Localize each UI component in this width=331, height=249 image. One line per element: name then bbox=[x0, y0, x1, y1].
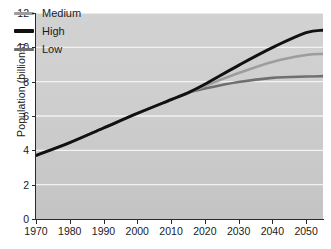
x-tick-mark bbox=[104, 220, 105, 224]
legend-swatch-icon bbox=[14, 48, 34, 51]
x-tick-mark bbox=[36, 220, 37, 224]
y-tick-mark bbox=[32, 219, 36, 220]
legend-item-high[interactable]: High bbox=[14, 23, 81, 39]
x-tick-mark bbox=[70, 220, 71, 224]
legend-swatch-icon bbox=[14, 29, 34, 33]
legend-item-label: High bbox=[42, 26, 65, 37]
y-tick-mark bbox=[32, 13, 36, 14]
legend-item-label: Medium bbox=[42, 8, 81, 19]
y-tick-mark bbox=[32, 47, 36, 48]
x-tick-mark bbox=[171, 220, 172, 224]
legend-item-medium[interactable]: Medium bbox=[14, 5, 81, 21]
x-tick-mark bbox=[272, 220, 273, 224]
x-tick-mark bbox=[239, 220, 240, 224]
x-tick-mark bbox=[205, 220, 206, 224]
legend-swatch-icon bbox=[14, 12, 34, 15]
x-tick-mark bbox=[137, 220, 138, 224]
y-tick-mark bbox=[32, 150, 36, 151]
y-tick-mark bbox=[32, 185, 36, 186]
legend-item-low[interactable]: Low bbox=[14, 41, 81, 57]
x-tick-label: 2050 bbox=[286, 226, 326, 237]
y-tick-mark bbox=[32, 82, 36, 83]
x-tick-mark bbox=[306, 220, 307, 224]
chart-legend: MediumHighLow bbox=[14, 5, 81, 59]
legend-item-label: Low bbox=[42, 44, 62, 55]
y-tick-mark bbox=[32, 116, 36, 117]
population-projection-chart: Population (billions) 121086420 19701980… bbox=[0, 0, 331, 249]
